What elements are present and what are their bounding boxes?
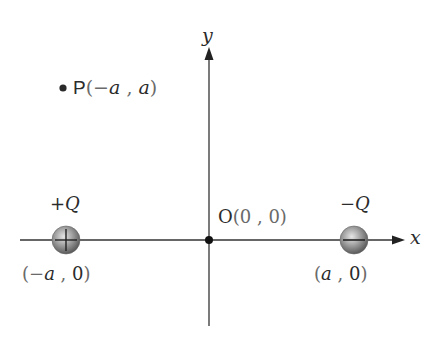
positive-charge-sign: + <box>50 193 65 214</box>
negative-charge-sphere <box>340 226 368 254</box>
pos-sep: , <box>332 263 349 284</box>
pos-x-sign: − <box>29 263 44 284</box>
negative-charge-position: (a , 0) <box>314 265 367 283</box>
pos-x: a <box>44 263 55 284</box>
origin-letter: O <box>218 206 233 227</box>
pos-close: ) <box>83 263 90 284</box>
point-p-label: P(−a , a) <box>73 78 157 97</box>
y-axis <box>205 47 214 326</box>
y-axis-arrow-icon <box>205 47 214 60</box>
charge-diagram: y x P(−a , a) +Q (−a , 0) −Q (a , 0) O(0… <box>0 0 448 358</box>
pos-y: 0 <box>349 263 360 284</box>
origin-coords: (0 , 0) <box>233 206 287 227</box>
positive-charge-label: +Q <box>50 195 80 213</box>
y-axis-label: y <box>202 26 213 45</box>
point-p-x: a <box>109 76 120 98</box>
diagram-canvas <box>0 0 448 358</box>
positive-charge-position: (−a , 0) <box>22 265 91 283</box>
origin-dot <box>205 236 213 244</box>
negative-charge-label: −Q <box>340 195 370 213</box>
negative-charge-q: Q <box>355 193 370 214</box>
point-p-close-paren: ) <box>150 76 157 98</box>
point-p-x-sign: − <box>93 76 109 98</box>
point-p-y: a <box>138 76 149 98</box>
pos-y: 0 <box>72 263 83 284</box>
point-p-dot <box>59 84 66 91</box>
pos-close: ) <box>360 263 367 284</box>
negative-charge-sign: − <box>340 193 355 214</box>
x-axis-label: x <box>410 228 421 247</box>
point-p-sep: , <box>120 76 138 98</box>
pos-sep: , <box>55 263 72 284</box>
x-axis-arrow-icon <box>392 236 405 245</box>
origin-label: O(0 , 0) <box>218 208 287 226</box>
point-p-name: P <box>73 77 86 98</box>
pos-open: ( <box>314 263 321 284</box>
positive-charge-sphere <box>52 226 80 254</box>
pos-open: ( <box>22 263 29 284</box>
positive-charge-q: Q <box>65 193 80 214</box>
pos-x: a <box>321 263 332 284</box>
point-p-open-paren: ( <box>86 76 93 98</box>
